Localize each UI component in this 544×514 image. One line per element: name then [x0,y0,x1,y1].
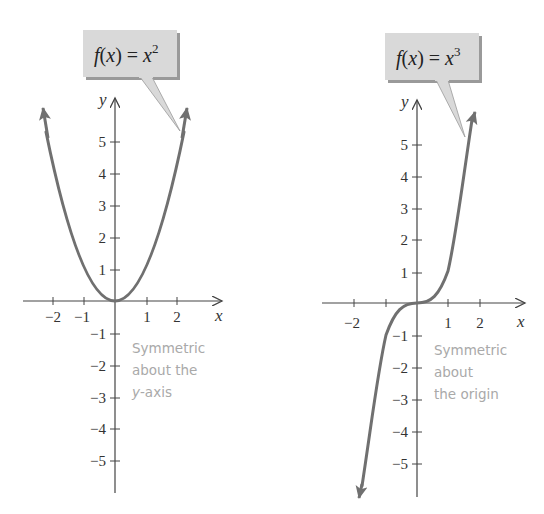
left-xtick-neg2: −2 [45,309,61,325]
right-xtick-1: 1 [444,315,452,331]
left-callout: f(x) = x2 [83,30,180,131]
right-callout-formula: f(x) = x3 [396,44,460,70]
left-note-line1: Symmetric [132,340,205,356]
right-ytick-1: 1 [401,265,409,281]
right-xtick-neg2: −2 [344,315,360,331]
left-ytick-4: 4 [99,166,107,182]
right-y-axis-label: y [399,92,409,111]
right-ytick-neg1: −1 [392,328,408,344]
right-ytick-5: 5 [401,137,409,153]
left-x-axis-label: x [214,306,223,325]
right-ytick-neg3: −3 [392,392,408,408]
right-ytick-3: 3 [401,201,409,217]
left-note-line2: about the [132,362,197,378]
right-callout: f(x) = x3 [385,33,482,137]
right-note-line1: Symmetric [434,342,507,358]
left-ytick-neg5: −5 [90,453,106,469]
right-note-line2: about [434,364,473,380]
left-note-line3: y-axis [131,384,172,400]
right-x-axis-label: x [516,312,525,331]
right-ytick-neg2: −2 [392,360,408,376]
left-xtick-2: 2 [173,309,181,325]
right-note-line3: the origin [434,386,499,402]
left-ytick-neg1: −1 [90,326,106,342]
left-callout-formula: f(x) = x2 [94,41,158,67]
left-ytick-neg2: −2 [90,358,106,374]
right-ytick-4: 4 [401,169,409,185]
right-xtick-2: 2 [476,315,484,331]
right-ytick-neg4: −4 [392,424,408,440]
left-y-axis-label: y [97,90,107,109]
left-ytick-1: 1 [99,262,107,278]
left-ytick-neg3: −3 [90,390,106,406]
right-bottom-arrow-icon [359,484,362,498]
left-graph: f(x) = x2 −2 −1 1 2 [23,30,223,493]
right-ytick-neg5: −5 [392,456,408,472]
left-ytick-2: 2 [99,230,107,246]
figure: f(x) = x2 −2 −1 1 2 [0,0,544,514]
right-top-arrow-icon [472,112,475,122]
left-xtick-neg1: −1 [74,309,90,325]
right-graph: f(x) = x3 −2 1 2 x y 5 [322,33,525,498]
right-ytick-2: 2 [401,232,409,248]
left-xtick-1: 1 [143,309,151,325]
left-ytick-5: 5 [99,134,107,150]
left-ytick-3: 3 [99,198,107,214]
left-ytick-neg4: −4 [90,421,106,437]
